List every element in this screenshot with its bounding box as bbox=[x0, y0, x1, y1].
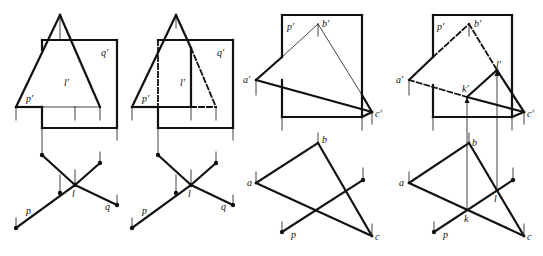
point-label: a′ bbox=[243, 74, 251, 85]
point-label: b′ bbox=[474, 18, 482, 29]
point-label: l′ bbox=[180, 77, 186, 88]
point-dot bbox=[174, 191, 178, 195]
point-dot bbox=[432, 230, 436, 234]
projection-diagram: q′l′p′lpqq′l′p′lpqp′b′a′c′bapcp′b′l′k′a′… bbox=[0, 0, 543, 256]
point-label: q′ bbox=[217, 47, 225, 58]
point-dot bbox=[156, 153, 160, 157]
point-label: p bbox=[442, 229, 448, 240]
point-label: p bbox=[290, 229, 296, 240]
point-dot bbox=[73, 183, 77, 187]
edge-line bbox=[256, 80, 372, 112]
edge-line bbox=[191, 163, 216, 185]
edge-line bbox=[191, 185, 233, 205]
point-label: c bbox=[375, 231, 380, 242]
point-label: p bbox=[25, 205, 31, 216]
point-label: q bbox=[221, 201, 226, 212]
point-dot bbox=[231, 203, 235, 207]
edge-line bbox=[409, 143, 469, 183]
edge-line bbox=[16, 185, 75, 228]
figure-3: p′b′a′c′bapc bbox=[243, 15, 382, 242]
edge-line bbox=[256, 143, 318, 183]
point-label: k bbox=[464, 213, 469, 224]
point-label: p′ bbox=[141, 93, 150, 104]
point-label: p′ bbox=[436, 21, 445, 32]
edge-line bbox=[75, 163, 100, 185]
point-dot bbox=[130, 226, 134, 230]
edge-line bbox=[42, 155, 75, 185]
hidden-edge-line bbox=[409, 80, 467, 97]
point-label: c′ bbox=[375, 108, 382, 119]
edge-line bbox=[132, 185, 191, 228]
point-dot bbox=[98, 161, 102, 165]
edge-line bbox=[16, 15, 60, 107]
edge-line bbox=[318, 143, 372, 236]
point-dot bbox=[115, 203, 119, 207]
edge-line bbox=[75, 185, 117, 205]
edge-line bbox=[282, 180, 363, 232]
edge-line bbox=[256, 57, 282, 80]
point-dot bbox=[14, 226, 18, 230]
point-dot bbox=[189, 183, 193, 187]
figure-2: q′l′p′lpq bbox=[130, 15, 235, 230]
point-dot bbox=[58, 191, 62, 195]
point-dot bbox=[280, 230, 284, 234]
edge-line bbox=[176, 15, 191, 48]
point-label: c bbox=[527, 231, 532, 242]
point-label: q bbox=[105, 201, 110, 212]
edge-line bbox=[469, 143, 524, 236]
point-label: l bbox=[72, 188, 75, 199]
diagram-svg: q′l′p′lpqq′l′p′lpqp′b′a′c′bapcp′b′l′k′a′… bbox=[0, 0, 543, 256]
edge-line bbox=[60, 15, 100, 107]
point-label: a bbox=[247, 177, 252, 188]
hidden-edge-line bbox=[191, 48, 216, 107]
point-label: l′ bbox=[64, 77, 70, 88]
edge-line bbox=[362, 112, 372, 117]
point-dot bbox=[511, 178, 515, 182]
point-label: k′ bbox=[462, 83, 469, 94]
point-label: c′ bbox=[527, 108, 534, 119]
point-dot bbox=[361, 178, 365, 182]
point-label: l bbox=[188, 188, 191, 199]
edge-line bbox=[512, 112, 524, 117]
edge-line bbox=[409, 57, 433, 80]
point-label: l′ bbox=[496, 59, 502, 70]
projection-line bbox=[318, 24, 362, 95]
figure-4: p′b′l′k′a′c′balkpc bbox=[396, 15, 534, 242]
edge-line bbox=[434, 180, 513, 232]
point-label: p′ bbox=[286, 21, 295, 32]
edge-line bbox=[467, 70, 497, 97]
edge-line bbox=[256, 183, 372, 236]
point-label: a′ bbox=[396, 74, 404, 85]
point-label: b′ bbox=[322, 18, 330, 29]
point-label: p′ bbox=[25, 93, 34, 104]
point-label: l bbox=[494, 193, 497, 204]
point-label: q′ bbox=[101, 47, 109, 58]
point-dot bbox=[214, 161, 218, 165]
point-label: b bbox=[322, 134, 327, 145]
point-label: p bbox=[141, 205, 147, 216]
figure-1: q′l′p′lpq bbox=[14, 15, 119, 230]
point-label: b bbox=[472, 137, 477, 148]
point-label: a bbox=[399, 177, 404, 188]
point-dot bbox=[40, 153, 44, 157]
edge-line bbox=[132, 15, 176, 107]
edge-line bbox=[158, 155, 191, 185]
hidden-edge-line bbox=[469, 24, 497, 70]
